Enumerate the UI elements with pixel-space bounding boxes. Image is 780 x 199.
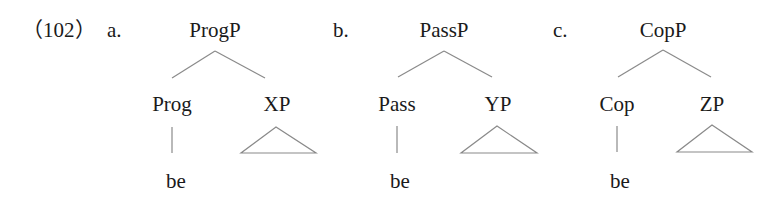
tree-a-head-node: Prog: [152, 92, 192, 116]
tree-a: a. ProgP Prog XP be: [107, 18, 316, 193]
example-number: （102）: [22, 18, 96, 42]
syntax-tree-figure: （102） a. ProgP Prog XP be b. PassP Pass …: [0, 0, 780, 199]
tree-b-complement-triangle: [461, 126, 537, 153]
tree-b-root-node: PassP: [419, 18, 468, 42]
tree-b-head-node: Pass: [378, 92, 415, 116]
tree-a-complement-node: XP: [264, 92, 291, 116]
tree-a-root-node: ProgP: [189, 18, 240, 42]
tree-a-head-word: be: [166, 169, 186, 193]
tree-a-label: a.: [107, 18, 122, 42]
tree-c-complement-triangle: [677, 125, 752, 152]
tree-c-head-node: Cop: [599, 92, 634, 116]
tree-b-head-word: be: [390, 169, 410, 193]
tree-a-right-branch: [215, 51, 265, 78]
tree-c-complement-node: ZP: [700, 92, 725, 116]
tree-c-label: c.: [553, 18, 568, 42]
tree-c-head-word: be: [610, 169, 630, 193]
tree-a-left-branch: [172, 51, 215, 78]
tree-b-complement-node: YP: [485, 92, 512, 116]
tree-c-left-branch: [618, 50, 663, 77]
tree-c-right-branch: [663, 50, 711, 77]
tree-b-right-branch: [444, 51, 492, 77]
tree-c-root-node: CopP: [640, 18, 687, 42]
tree-b-label: b.: [333, 18, 349, 42]
tree-b: b. PassP Pass YP be: [333, 18, 537, 193]
tree-b-left-branch: [398, 51, 444, 77]
tree-c: c. CopP Cop ZP be: [553, 18, 752, 193]
tree-a-complement-triangle: [241, 127, 316, 153]
